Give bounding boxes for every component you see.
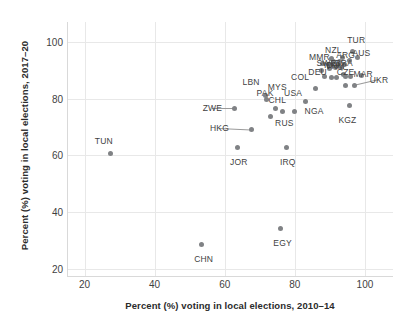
data-point bbox=[284, 145, 289, 150]
data-point-label: LBN bbox=[242, 77, 259, 86]
gridline-horizontal bbox=[67, 155, 393, 156]
data-point bbox=[343, 83, 348, 88]
plot-area: TUNCHNEGYJORIRQHKGZWEPAKCHLRUSLBNMYSUSAC… bbox=[67, 22, 393, 277]
data-point-label: TUR bbox=[347, 36, 365, 45]
x-axis-tick-label: 20 bbox=[79, 279, 90, 290]
data-point-label: IRQ bbox=[280, 158, 296, 167]
data-point bbox=[249, 127, 254, 132]
gridline-vertical bbox=[225, 22, 226, 277]
y-axis-line bbox=[67, 22, 68, 277]
data-point bbox=[199, 242, 204, 247]
y-axis-tick-label: 60 bbox=[52, 150, 63, 161]
data-point-label: RUS bbox=[275, 118, 294, 127]
data-point bbox=[352, 83, 357, 88]
data-point bbox=[278, 226, 283, 231]
y-axis-tick-label: 20 bbox=[52, 263, 63, 274]
x-axis-tick-label: 80 bbox=[289, 279, 300, 290]
gridline-horizontal bbox=[67, 99, 393, 100]
data-point bbox=[313, 86, 318, 91]
data-point-label: NGA bbox=[305, 107, 324, 116]
data-point bbox=[268, 114, 273, 119]
data-point-label: MAR bbox=[353, 70, 373, 79]
gridline-vertical bbox=[295, 22, 296, 277]
data-point-label: TUN bbox=[95, 137, 113, 146]
x-axis-tick-label: 100 bbox=[357, 279, 374, 290]
gridline-horizontal bbox=[67, 269, 393, 270]
data-point bbox=[280, 109, 285, 114]
data-point-label: KGZ bbox=[338, 116, 356, 125]
data-point-label: COL bbox=[291, 73, 309, 82]
x-axis-title: Percent (%) voting in local elections, 2… bbox=[67, 300, 393, 311]
x-axis-tick-label: 40 bbox=[149, 279, 160, 290]
y-axis-tick-label: 40 bbox=[52, 206, 63, 217]
gridline-vertical bbox=[85, 22, 86, 277]
gridline-horizontal bbox=[67, 212, 393, 213]
data-point-label: SWE bbox=[316, 59, 336, 68]
scatter-chart: TUNCHNEGYJORIRQHKGZWEPAKCHLRUSLBNMYSUSAC… bbox=[0, 0, 403, 334]
data-point bbox=[232, 106, 237, 111]
data-point bbox=[235, 145, 240, 150]
y-axis-ticks: 20406080100 bbox=[38, 22, 63, 277]
data-point bbox=[347, 103, 352, 108]
gridline-vertical bbox=[155, 22, 156, 277]
gridline-vertical bbox=[365, 22, 366, 277]
x-axis-ticks: 20406080100 bbox=[67, 279, 393, 295]
data-point-label: JOR bbox=[230, 158, 248, 167]
data-point-label: CHN bbox=[194, 254, 213, 263]
y-axis-title: Percent (%) voting in local elections, 2… bbox=[19, 26, 30, 266]
data-point-label: HKG bbox=[210, 124, 229, 133]
data-point-label: ZWE bbox=[203, 104, 222, 113]
data-point bbox=[329, 75, 334, 80]
data-point-label: USA bbox=[284, 89, 302, 98]
data-point bbox=[273, 106, 278, 111]
data-point bbox=[292, 109, 297, 114]
data-point-label: EGY bbox=[273, 239, 292, 248]
y-axis-tick-label: 100 bbox=[46, 36, 63, 47]
data-point bbox=[303, 99, 308, 104]
y-axis-tick-label: 80 bbox=[52, 93, 63, 104]
x-axis-tick-label: 60 bbox=[219, 279, 230, 290]
x-axis-line bbox=[67, 276, 393, 277]
gridline-horizontal bbox=[67, 42, 393, 43]
